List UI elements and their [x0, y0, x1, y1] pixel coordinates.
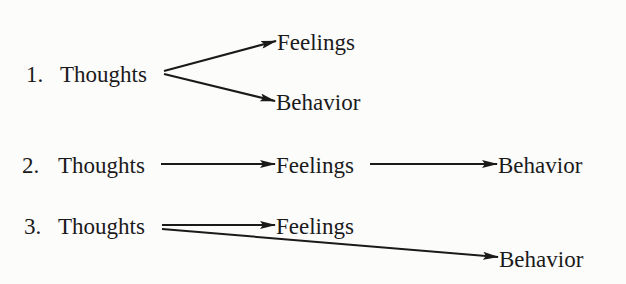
model-3-arrow-thoughts-to-behavior-icon: [162, 229, 498, 257]
model-1-arrow-thoughts-to-behavior-icon: [164, 74, 275, 101]
model-1-arrow-thoughts-to-feelings-icon: [164, 41, 276, 71]
arrows-layer: [0, 0, 626, 284]
